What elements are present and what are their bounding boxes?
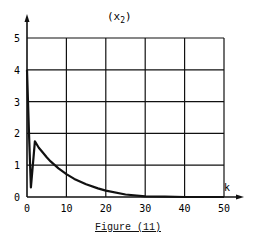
y-tick-label: 0 [14,192,20,203]
y-tick-label: 4 [14,65,20,76]
x-tick-label: 50 [218,203,230,214]
y-tick-label: 2 [14,128,20,139]
axes [25,14,245,200]
chart-title: (x2) [107,10,132,25]
y-tick-label: 1 [14,160,20,171]
chart-figure: 012345 01020304050 (x2) k [0,0,256,245]
y-tick-label: 3 [14,97,20,108]
x-tick-label: 30 [139,203,151,214]
x-tick-label: 10 [60,203,72,214]
figure-caption: Figure (11) [0,222,256,233]
x-tick-label: 0 [24,203,30,214]
y-tick-labels: 012345 [14,33,20,203]
x-axis-label: k [224,182,230,193]
caption-text: Figure (11) [95,222,161,233]
x-axis-arrow-icon [236,195,244,200]
y-axis-arrow-icon [25,14,30,22]
x-tick-label: 20 [100,203,112,214]
x-tick-label: 40 [179,203,191,214]
y-tick-label: 5 [14,33,20,44]
x-tick-labels: 01020304050 [24,203,230,214]
grid-lines [27,38,224,197]
